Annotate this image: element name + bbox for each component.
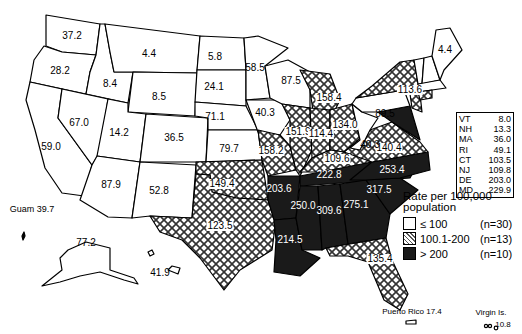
puerto-rico-shape bbox=[406, 320, 416, 324]
label-sd: 24.1 bbox=[204, 82, 223, 92]
swatch-crosshatch-icon bbox=[403, 232, 416, 245]
label-mn: 58.5 bbox=[245, 63, 264, 73]
label-ia: 40.3 bbox=[255, 108, 274, 118]
small-state-row: RI49.1 bbox=[459, 145, 511, 155]
value-virgin-islands: 10.8 bbox=[495, 321, 511, 329]
small-state-row: DE203.0 bbox=[459, 175, 511, 185]
label-nd: 5.8 bbox=[208, 52, 222, 62]
label-ny: 113.6 bbox=[397, 85, 423, 95]
label-mt: 4.4 bbox=[142, 49, 156, 59]
label-or: 28.2 bbox=[50, 66, 69, 76]
label-sc: 317.5 bbox=[366, 185, 391, 195]
label-ok: 149.4 bbox=[208, 179, 235, 189]
label-tx: 123.5 bbox=[206, 221, 233, 231]
label-wv: 40.3 bbox=[360, 140, 379, 150]
small-state-row: NJ109.8 bbox=[459, 165, 511, 175]
label-id: 8.4 bbox=[103, 79, 117, 89]
legend-item-mid: 100.1-200 (n=13) bbox=[403, 231, 521, 246]
label-az: 87.9 bbox=[101, 180, 120, 190]
swatch-white-icon bbox=[403, 217, 416, 230]
label-puerto-rico: Puerto Rico 17.4 bbox=[382, 308, 442, 316]
label-mi: 158.4 bbox=[315, 93, 342, 103]
small-state-row: MA36.0 bbox=[459, 134, 511, 144]
label-in: 114.4 bbox=[308, 129, 334, 139]
label-co: 36.5 bbox=[164, 133, 183, 143]
label-ky: 109.6 bbox=[323, 154, 350, 164]
label-hi: 41.9 bbox=[150, 268, 169, 278]
label-ne: 71.1 bbox=[205, 112, 224, 122]
state-ak bbox=[42, 242, 138, 286]
label-ms: 250.0 bbox=[290, 201, 315, 211]
label-fl: 135.4 bbox=[366, 254, 393, 264]
label-mo: 158.2 bbox=[257, 146, 284, 156]
label-virgin-islands: Virgin Is. bbox=[476, 309, 507, 317]
legend-title-line2: population bbox=[403, 202, 521, 213]
label-al: 309.6 bbox=[316, 206, 341, 216]
legend-item-low: ≤ 100 (n=30) bbox=[403, 216, 521, 231]
label-nc: 253.4 bbox=[379, 165, 404, 175]
label-tn: 222.8 bbox=[316, 170, 341, 180]
state-fl bbox=[326, 238, 408, 310]
label-ks: 79.7 bbox=[219, 144, 238, 154]
small-state-row: NH13.3 bbox=[459, 124, 511, 134]
small-states-table: VT8.0 NH13.3 MA36.0 RI49.1 CT103.5 NJ109… bbox=[456, 112, 514, 198]
small-state-row: VT8.0 bbox=[459, 114, 511, 124]
swatch-black-icon bbox=[403, 247, 416, 260]
label-nv: 67.0 bbox=[69, 118, 88, 128]
legend: Rate per 100,000 population ≤ 100 (n=30)… bbox=[403, 191, 521, 261]
label-ut: 14.2 bbox=[109, 128, 128, 138]
label-ak: 77.2 bbox=[76, 238, 95, 248]
label-pa: 89.5 bbox=[375, 109, 394, 119]
label-ca: 59.0 bbox=[41, 142, 60, 152]
guam-shape bbox=[22, 232, 25, 240]
label-wa: 37.2 bbox=[62, 31, 81, 41]
label-wi: 87.5 bbox=[281, 76, 300, 86]
label-la: 214.5 bbox=[277, 235, 302, 245]
label-nm: 52.8 bbox=[149, 186, 168, 196]
label-ga: 275.1 bbox=[343, 200, 368, 210]
label-me: 4.4 bbox=[438, 45, 452, 55]
state-hi-island bbox=[148, 250, 154, 256]
state-hi bbox=[168, 266, 180, 274]
virgin-islands-shape bbox=[484, 324, 487, 327]
label-wy: 8.5 bbox=[152, 92, 166, 102]
label-ar: 203.6 bbox=[266, 184, 291, 194]
label-oh: 134.0 bbox=[331, 120, 358, 130]
small-state-row: CT103.5 bbox=[459, 155, 511, 165]
legend-item-high: > 200 (n=10) bbox=[403, 246, 521, 261]
label-guam: Guam 39.7 bbox=[10, 205, 55, 213]
